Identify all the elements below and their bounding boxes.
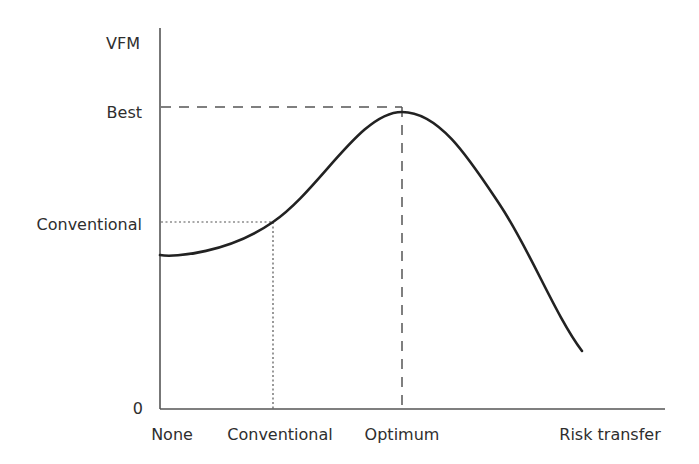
x-axis-title: Risk transfer	[559, 425, 660, 444]
y-tick-zero: 0	[0, 399, 143, 418]
y-axis-title: VFM	[0, 34, 140, 53]
y-tick-best: Best	[0, 103, 142, 122]
y-tick-conventional: Conventional	[0, 215, 142, 234]
x-tick-optimum: Optimum	[365, 425, 440, 444]
x-tick-conventional: Conventional	[227, 425, 332, 444]
vfm-curve	[160, 112, 582, 351]
x-tick-none: None	[151, 425, 193, 444]
